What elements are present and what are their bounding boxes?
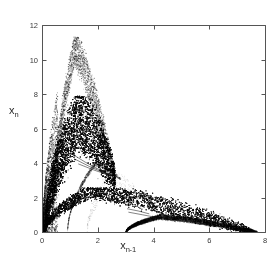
figure-container: xn-1 xn 02468 024681012 <box>0 0 280 261</box>
y-tick-label: 4 <box>26 159 38 168</box>
y-tick-label: 8 <box>26 90 38 99</box>
y-axis-label: xn <box>9 104 18 116</box>
x-tick-label: 4 <box>151 236 155 245</box>
x-axis-label-base: x <box>120 239 126 251</box>
x-axis-label: xn-1 <box>120 239 136 251</box>
x-tick-label: 0 <box>40 236 44 245</box>
x-tick-label: 2 <box>96 236 100 245</box>
x-tick-label: 6 <box>207 236 211 245</box>
y-tick-label: 2 <box>26 193 38 202</box>
y-tick-label: 10 <box>26 55 38 64</box>
x-tick-label: 8 <box>263 236 267 245</box>
y-axis-label-subscript: n <box>15 110 19 119</box>
x-axis-label-subscript: n-1 <box>126 245 136 254</box>
y-tick-label: 6 <box>26 124 38 133</box>
y-tick-label: 0 <box>26 228 38 237</box>
y-tick-label: 12 <box>26 21 38 30</box>
scatter-plot-canvas <box>0 0 280 261</box>
y-axis-label-base: x <box>9 104 15 116</box>
